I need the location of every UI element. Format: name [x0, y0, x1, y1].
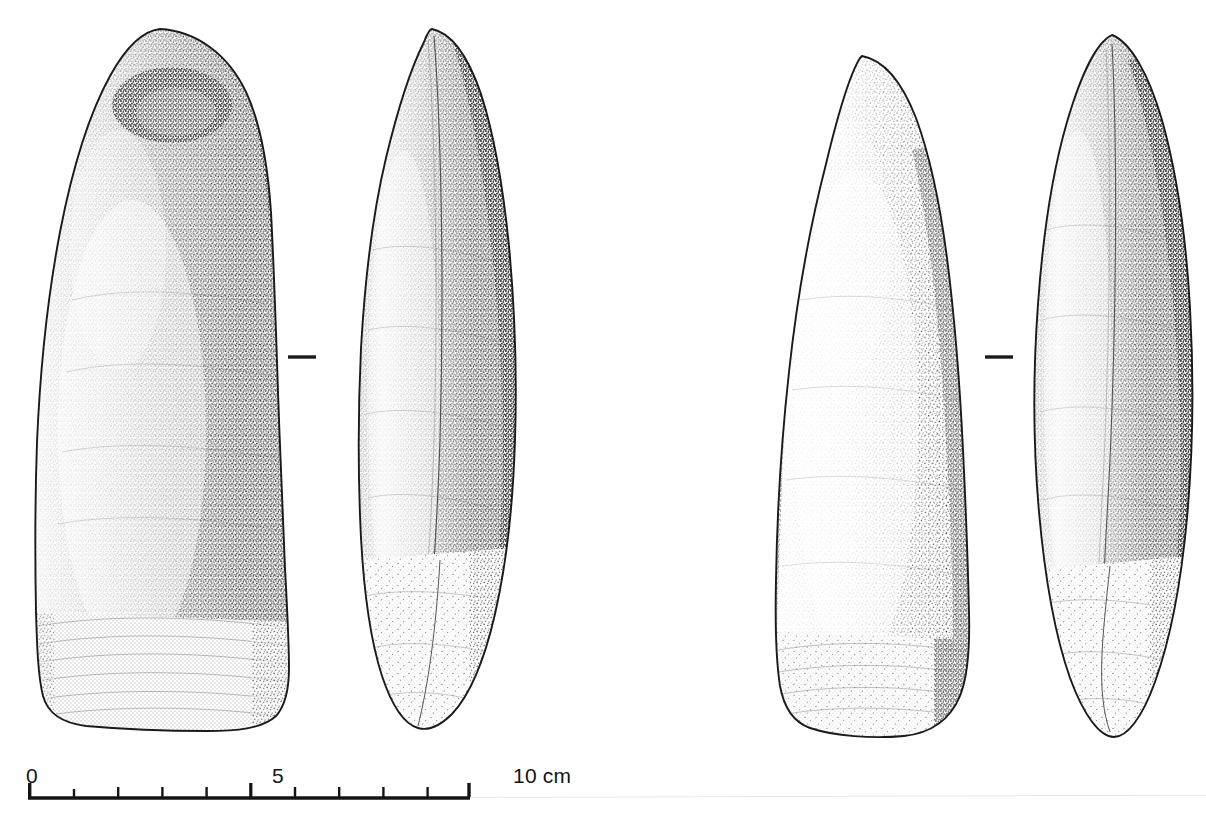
figure-drawing-canvas	[0, 0, 1206, 831]
scale-label-0: 0	[26, 764, 38, 788]
scale-label-5: 5	[272, 764, 284, 788]
scale-label-10: 10 cm	[513, 764, 571, 788]
archaeological-plate: 0 5 10 cm	[0, 0, 1206, 831]
